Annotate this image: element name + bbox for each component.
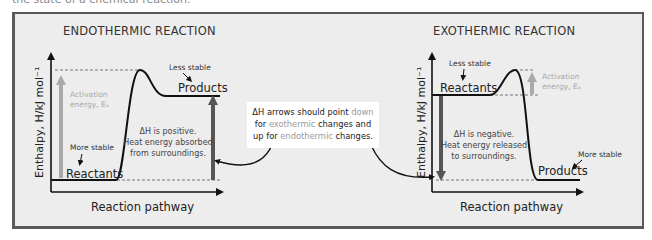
note-line2-text: for <box>255 119 269 129</box>
note-word-down: down <box>351 107 373 117</box>
activation-label-2: energy, Eₐ <box>542 82 581 91</box>
y-axis-label: Enthalpy, H/kJ mol⁻¹ <box>415 67 428 178</box>
exothermic-diagram: EXOTHERMIC REACTION Enthalpy, H/kJ mol⁻¹… <box>415 24 622 214</box>
delta-h-direction-note: ΔH arrows should point down for exotherm… <box>247 102 379 148</box>
delta-h-text-2: Heat energy absorbed <box>123 138 212 147</box>
reactants-label: Reactants <box>66 167 123 181</box>
endothermic-title: ENDOTHERMIC REACTION <box>63 24 216 38</box>
activation-label-1: Activation <box>70 90 108 99</box>
delta-h-text-2: Heat energy released <box>441 141 527 150</box>
less-stable-pointer <box>183 73 190 80</box>
note-line1-text: ΔH arrows should point <box>252 107 351 117</box>
callout-arrow-to-endothermic <box>217 145 272 165</box>
less-stable-pointer <box>463 69 464 78</box>
more-stable-pointer <box>80 154 82 163</box>
x-axis-label: Reaction pathway <box>91 200 194 214</box>
activation-label-1: Activation <box>542 72 580 81</box>
less-stable-label: Less stable <box>449 59 491 68</box>
products-label: Products <box>178 81 228 95</box>
more-stable-label: More stable <box>70 143 114 152</box>
products-label: Products <box>538 164 588 178</box>
endothermic-diagram: ENDOTHERMIC REACTION Enthalpy, H/kJ mol⁻… <box>33 24 228 214</box>
note-word-endothermic: endothermic <box>280 131 333 141</box>
note-line3-post: changes. <box>333 131 373 141</box>
less-stable-label: Less stable <box>169 63 211 72</box>
y-axis-label: Enthalpy, H/kJ mol⁻¹ <box>33 67 46 178</box>
note-line3-text: up for <box>253 131 280 141</box>
note-word-exothermic: exothermic <box>269 119 316 129</box>
note-line2-post: changes and <box>315 119 371 129</box>
delta-h-text-1: ΔH is positive. <box>140 127 197 136</box>
delta-h-text-1: ΔH is negative. <box>454 130 515 139</box>
exothermic-title: EXOTHERMIC REACTION <box>433 24 575 38</box>
x-axis-label: Reaction pathway <box>460 200 563 214</box>
more-stable-label: More stable <box>578 150 622 159</box>
delta-h-text-3: to surroundings. <box>451 152 516 161</box>
delta-h-text-3: from surroundings. <box>130 149 206 158</box>
activation-label-2: energy, Eₐ <box>70 100 109 109</box>
reactants-label: Reactants <box>440 81 497 95</box>
